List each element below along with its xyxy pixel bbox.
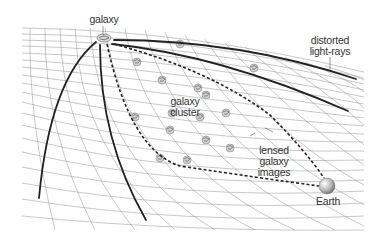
lensed-images-label-line3: images xyxy=(257,167,291,178)
galaxy-cluster-label-line2: cluster xyxy=(167,107,203,118)
lensing-diagram: galaxy distorted light-rays galaxy clust… xyxy=(0,0,387,249)
source-galaxy-label: galaxy xyxy=(85,14,123,25)
earth-label: Earth xyxy=(311,196,345,207)
light-rays-label: distorted light-rays xyxy=(300,35,360,57)
light-rays-label-line2: light-rays xyxy=(300,46,360,57)
galaxy-cluster-label: galaxy cluster xyxy=(167,96,203,118)
earth-icon xyxy=(319,178,335,194)
source-galaxy-icon xyxy=(97,34,111,42)
lensed-images-label: lensed galaxy images xyxy=(257,145,291,178)
